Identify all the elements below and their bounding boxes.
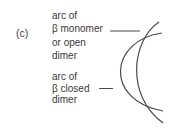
arcs-figure xyxy=(0,0,174,128)
